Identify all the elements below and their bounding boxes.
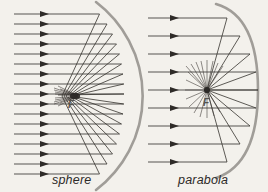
parabola-focus-label: F xyxy=(203,97,210,108)
sphere-caption: sphere xyxy=(52,173,91,187)
parabola-caption: parabola xyxy=(177,173,228,187)
sphere-focus-label: F xyxy=(68,99,75,110)
optics-figure: F sphere xyxy=(0,0,268,192)
parabola-focus-point xyxy=(204,87,210,93)
mirror-focus-diagram: F sphere xyxy=(0,0,268,192)
